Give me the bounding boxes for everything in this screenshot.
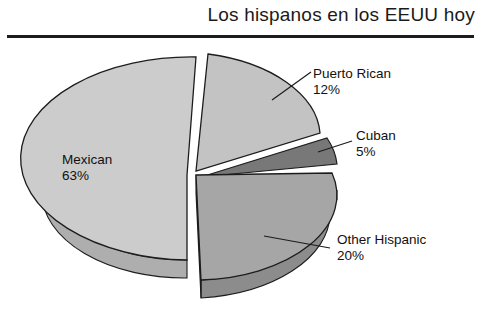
slice-label-puerto-rican: Puerto Rican 12%	[313, 66, 391, 98]
page-title: Los hispanos en los EEUU hoy	[0, 4, 475, 26]
slice-label-other-hispanic: Other Hispanic 20%	[337, 232, 426, 264]
title-divider	[7, 35, 474, 38]
slice-label-mexican-name: Mexican	[62, 152, 112, 167]
slice-label-puerto-rican-name: Puerto Rican	[313, 66, 391, 81]
slice-label-other-hispanic-percent: 20%	[337, 248, 426, 264]
slice-label-other-hispanic-name: Other Hispanic	[337, 232, 426, 247]
chart-page: Los hispanos en los EEUU hoy Mexican 63%	[0, 0, 487, 318]
slice-label-cuban-name: Cuban	[356, 128, 396, 143]
slice-label-puerto-rican-percent: 12%	[313, 82, 391, 98]
slice-label-mexican: Mexican 63%	[62, 152, 112, 184]
slice-label-cuban: Cuban 5%	[356, 128, 396, 160]
slice-label-cuban-percent: 5%	[356, 144, 396, 160]
slice-label-mexican-percent: 63%	[62, 168, 112, 184]
slice-top-other-hispanic	[196, 173, 337, 280]
